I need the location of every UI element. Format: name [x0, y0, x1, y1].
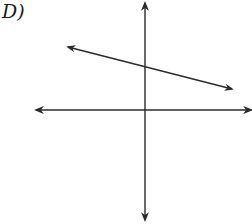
graphed-line	[68, 47, 232, 89]
graph	[0, 0, 252, 224]
